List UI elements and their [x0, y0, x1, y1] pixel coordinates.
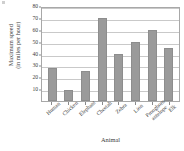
y-axis-tick-label: 30 — [32, 64, 38, 70]
plot-area — [41, 7, 180, 102]
bar-chart: Maximum speed (in miles per hour) 102030… — [0, 0, 184, 151]
scan-artifact — [2, 1, 5, 4]
bar — [81, 71, 90, 101]
x-label-slot: Elephant — [77, 104, 94, 134]
bar — [48, 68, 57, 101]
y-axis-tick-labels: 1020304050607080 — [24, 7, 39, 102]
bar-slot — [144, 8, 161, 101]
x-axis-category-label-line: Lion — [132, 102, 144, 114]
x-label-slot: Pronghornantelope — [144, 104, 161, 134]
bar — [98, 18, 107, 101]
bar-slot — [160, 8, 177, 101]
y-axis-tick-label: 70 — [32, 16, 38, 22]
bar-slot — [127, 8, 144, 101]
x-axis-category-label: Zebra — [114, 102, 128, 115]
y-axis-tick-label: 60 — [32, 28, 38, 34]
y-axis-tick-label: 40 — [32, 52, 38, 58]
y-axis-title: Maximum speed (in miles per hour) — [7, 0, 21, 95]
y-axis-tick-label: 50 — [32, 40, 38, 46]
x-label-slot: Cheetah — [94, 104, 111, 134]
x-axis-category-label: Elk — [167, 103, 177, 113]
bar — [114, 54, 123, 102]
bar — [131, 42, 140, 101]
bar-series — [42, 8, 179, 101]
x-label-slot: Chicken — [60, 104, 77, 134]
x-axis-category-labels: HumanChickenElephantCheetahZebraLionPron… — [41, 104, 180, 134]
x-label-slot: Zebra — [111, 104, 128, 134]
bar-slot — [61, 8, 78, 101]
y-axis-tick-label: 80 — [32, 4, 38, 10]
x-axis-category-label-line: Zebra — [114, 102, 128, 115]
bar-slot — [77, 8, 94, 101]
x-axis-title: Animal — [41, 136, 180, 144]
x-label-slot: Lion — [127, 104, 144, 134]
x-axis-category-label: Lion — [132, 102, 144, 114]
y-axis-tick-label: 20 — [32, 75, 38, 81]
x-label-slot: Human — [43, 104, 60, 134]
bar-slot — [44, 8, 61, 101]
bar — [164, 48, 173, 101]
y-axis-title-line-2: (in miles per hour) — [14, 0, 21, 95]
bar-slot — [111, 8, 128, 101]
y-axis-title-line-1: Maximum speed — [7, 0, 14, 95]
bar — [64, 90, 73, 101]
x-label-slot: Elk — [161, 104, 178, 134]
x-axis-category-label-line: Elk — [167, 103, 177, 113]
bar-slot — [94, 8, 111, 101]
y-axis-tick-label: 10 — [32, 87, 38, 93]
bar — [148, 30, 157, 101]
